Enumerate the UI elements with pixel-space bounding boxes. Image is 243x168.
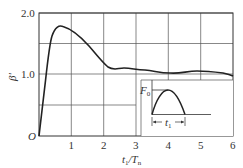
x-tick-3: 3 bbox=[133, 139, 139, 151]
chart: F0 t1 2.0 1.0 β' O 1 2 3 4 5 6 t1/Tn bbox=[0, 0, 243, 168]
x-axis-label: t1/Tn bbox=[122, 153, 142, 167]
x-tick-6: 6 bbox=[230, 139, 236, 151]
x-tick-5: 5 bbox=[198, 139, 204, 151]
y-tick-1: 1.0 bbox=[21, 68, 35, 80]
y-tick-2: 2.0 bbox=[21, 7, 35, 19]
y-axis-label: β' bbox=[6, 73, 18, 82]
x-tick-4: 4 bbox=[166, 139, 172, 151]
x-tick-1: 1 bbox=[69, 139, 75, 151]
origin-label: O bbox=[28, 130, 36, 142]
x-tick-2: 2 bbox=[101, 139, 107, 151]
